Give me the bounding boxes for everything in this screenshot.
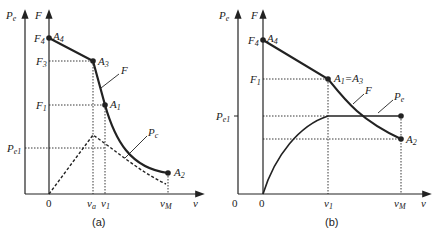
svg-text:v: v <box>193 197 198 209</box>
caption-b: (b) <box>325 216 338 228</box>
svg-text:vM: vM <box>394 197 407 211</box>
svg-text:A1=A3: A1=A3 <box>333 72 363 86</box>
svg-text:A4: A4 <box>52 30 64 44</box>
svg-text:Pe: Pe <box>393 90 405 104</box>
point-a4 <box>46 35 52 41</box>
svg-text:v1: v1 <box>101 197 110 211</box>
point-a3 <box>90 58 96 64</box>
panel-a: Pe F F4 F3 F1 Pe1 A4 A3 A1 A2 F Pc 0 va … <box>5 9 200 228</box>
svg-text:v: v <box>421 197 426 209</box>
svg-text:Pe1: Pe1 <box>6 142 21 156</box>
point-a1-a3 <box>325 76 331 82</box>
svg-text:F3: F3 <box>35 55 47 69</box>
guides-a <box>25 61 168 194</box>
svg-text:vM: vM <box>160 197 173 211</box>
caption-a: (a) <box>92 216 105 228</box>
svg-text:Pe: Pe <box>218 9 230 23</box>
point-a2 <box>165 170 171 176</box>
svg-text:v1: v1 <box>324 197 333 211</box>
svg-text:F4: F4 <box>33 32 45 46</box>
svg-text:Pc: Pc <box>147 126 159 140</box>
svg-text:A2: A2 <box>173 166 185 180</box>
svg-text:F: F <box>250 9 258 21</box>
guides-b <box>263 79 401 194</box>
svg-text:F1: F1 <box>249 73 261 87</box>
point-a4-b <box>260 37 266 43</box>
svg-text:F: F <box>120 64 128 76</box>
svg-text:Pe: Pe <box>5 9 17 23</box>
svg-text:0: 0 <box>46 197 52 209</box>
svg-text:F4: F4 <box>247 34 259 48</box>
svg-text:0: 0 <box>259 197 265 209</box>
point-pe-end <box>398 113 404 119</box>
svg-text:va: va <box>87 197 96 211</box>
panel-b: Pe F F4 F1 Pe1 A4 A1=A3 A2 F Pe 0 0 v1 v… <box>215 9 427 228</box>
point-a2-b <box>398 136 404 142</box>
svg-text:A4: A4 <box>266 32 278 46</box>
diagram-canvas: Pe F F4 F3 F1 Pe1 A4 A3 A1 A2 F Pc 0 va … <box>0 0 435 234</box>
svg-text:F: F <box>364 84 372 96</box>
svg-text:Pe1: Pe1 <box>215 110 230 124</box>
svg-text:A1: A1 <box>109 98 121 112</box>
svg-text:0: 0 <box>232 197 238 209</box>
f-curve-b <box>263 40 401 139</box>
svg-text:F: F <box>34 9 42 21</box>
svg-text:A3: A3 <box>97 55 109 69</box>
pc-curve-a <box>49 135 166 194</box>
point-a1 <box>102 102 108 108</box>
svg-text:F1: F1 <box>35 99 47 113</box>
svg-text:A2: A2 <box>405 133 417 147</box>
f-curve-a <box>49 38 168 173</box>
